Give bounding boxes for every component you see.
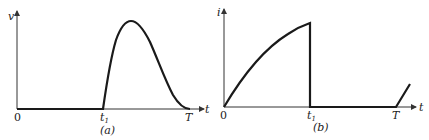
panel-b: i t 0 t1 T (b) [217,6,424,134]
tick-t1-a: t1 [100,111,109,125]
y-label-a: v [8,10,15,23]
waveform-figure: v t 0 t1 T (a) i t 0 t1 T (b) [0,0,429,140]
tick-T-b: T [392,109,401,122]
tick-T-a: T [185,111,194,124]
current-curve [224,23,410,107]
x-label-b: t [419,101,424,114]
panel-a: v t 0 t1 T (a) [8,10,210,137]
caption-b: (b) [313,121,329,134]
origin-label-a: 0 [14,111,21,124]
origin-label-b: 0 [220,109,227,122]
y-label-b: i [217,6,221,19]
x-label-a: t [205,103,210,116]
voltage-curve [17,21,190,109]
caption-a: (a) [100,124,115,137]
